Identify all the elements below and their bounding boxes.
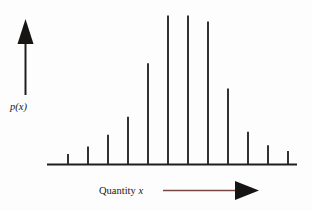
probability-distribution-figure: p(x) Quantity x [0,0,312,211]
x-axis-label-group: Quantity x [99,181,259,200]
x-axis-label-text: Quantity [99,185,138,196]
distribution-plot-canvas: p(x) Quantity x [0,0,312,211]
y-axis-arrow-head-icon [18,19,34,44]
distribution-bars-group [68,16,288,165]
x-axis-arrow-head-icon [235,181,259,200]
y-axis-label-paren: ) [22,101,27,113]
y-axis-label: p(x) [9,101,27,113]
x-axis-label: Quantity x [99,185,143,196]
y-axis-group [18,19,34,95]
x-axis-label-variable: x [137,185,143,196]
